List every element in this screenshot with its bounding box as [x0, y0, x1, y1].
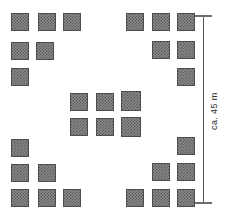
module-square — [11, 42, 29, 60]
dimension-label: ca. 45 m — [209, 91, 219, 131]
module-square — [152, 13, 170, 31]
module-square — [177, 13, 195, 31]
dimension-cap-bottom — [195, 202, 212, 204]
module-square — [11, 189, 29, 207]
module-square — [36, 42, 54, 60]
module-square — [70, 118, 88, 136]
module-square — [177, 41, 195, 59]
module-square — [152, 189, 170, 207]
module-square — [11, 139, 29, 157]
dimension-line — [203, 15, 204, 202]
site-layout-figure: ca. 45 m — [0, 0, 225, 218]
module-square — [177, 137, 195, 155]
module-square — [11, 164, 29, 182]
module-square — [38, 189, 56, 207]
module-square — [11, 68, 29, 86]
module-square — [11, 13, 29, 31]
module-square — [38, 13, 56, 31]
module-square — [121, 117, 141, 137]
module-square — [126, 13, 144, 31]
module-square — [152, 163, 170, 181]
module-square — [177, 163, 195, 181]
module-square — [152, 41, 170, 59]
module-square — [177, 189, 195, 207]
module-square — [177, 68, 195, 86]
module-square — [63, 13, 81, 31]
module-square — [63, 189, 81, 207]
module-square — [121, 91, 141, 111]
module-square — [126, 189, 144, 207]
module-square — [96, 93, 114, 111]
module-square — [70, 93, 88, 111]
module-square — [38, 164, 56, 182]
module-square — [96, 118, 114, 136]
dimension-cap-top — [195, 15, 212, 17]
